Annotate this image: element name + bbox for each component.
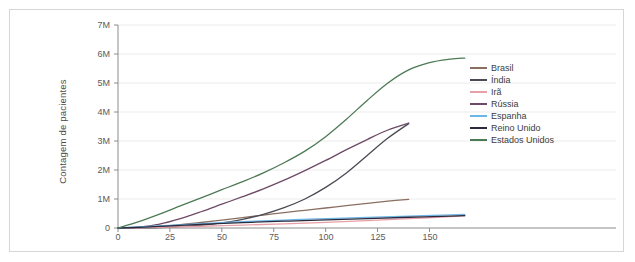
legend-item[interactable]: Rússia: [470, 98, 620, 110]
legend-item-label: Estados Unidos: [491, 134, 554, 146]
chart-series-line: [118, 124, 409, 228]
chart-legend: Brasil Índia Irã Rússia Espanha Reino Un…: [470, 62, 620, 146]
legend-item[interactable]: Estados Unidos: [470, 134, 620, 146]
chart-series-group: [118, 58, 465, 228]
chart-series-line: [118, 58, 465, 228]
legend-swatch-icon: [470, 127, 487, 129]
legend-swatch-icon: [470, 67, 487, 69]
legend-swatch-icon: [470, 79, 487, 81]
legend-item[interactable]: Reino Unido: [470, 122, 620, 134]
legend-item-label: Irã: [491, 86, 502, 98]
chart-screenshot: Contagem de pacientes 7M 6M 5M 4M 3M 2M …: [0, 0, 635, 262]
legend-item-label: Brasil: [491, 62, 514, 74]
legend-item[interactable]: Irã: [470, 86, 620, 98]
legend-swatch-icon: [470, 115, 487, 117]
legend-swatch-icon: [470, 91, 487, 93]
legend-item-label: Índia: [491, 74, 511, 86]
legend-swatch-icon: [470, 139, 487, 141]
legend-item-label: Espanha: [491, 110, 527, 122]
legend-item[interactable]: Índia: [470, 74, 620, 86]
legend-item[interactable]: Brasil: [470, 62, 620, 74]
chart-series-line: [118, 123, 409, 228]
legend-item[interactable]: Espanha: [470, 110, 620, 122]
legend-swatch-icon: [470, 103, 487, 105]
legend-item-label: Reino Unido: [491, 122, 541, 134]
legend-item-label: Rússia: [491, 98, 519, 110]
